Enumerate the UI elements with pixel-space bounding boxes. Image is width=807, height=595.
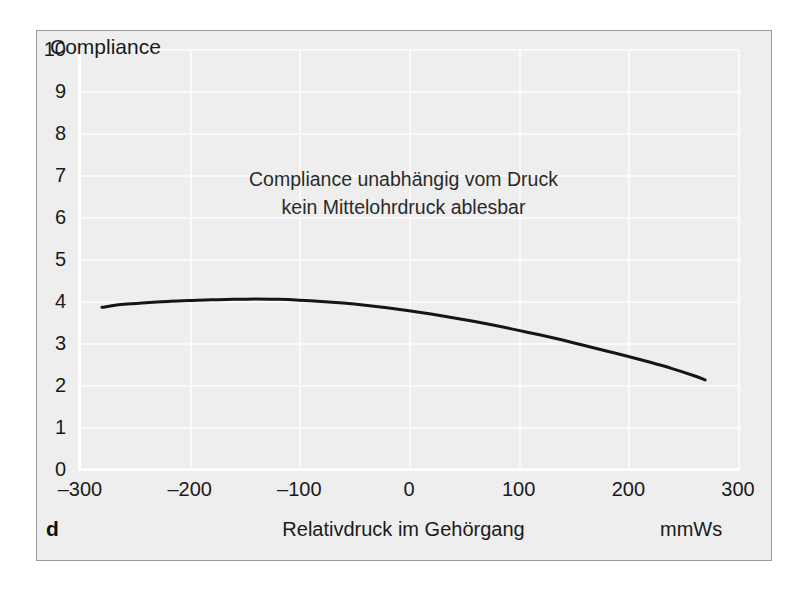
- figure-root: Compliance 012345678910 –300–200–1000100…: [0, 0, 807, 595]
- curve-layer: [0, 0, 807, 595]
- tympanogram-curve: [102, 299, 705, 380]
